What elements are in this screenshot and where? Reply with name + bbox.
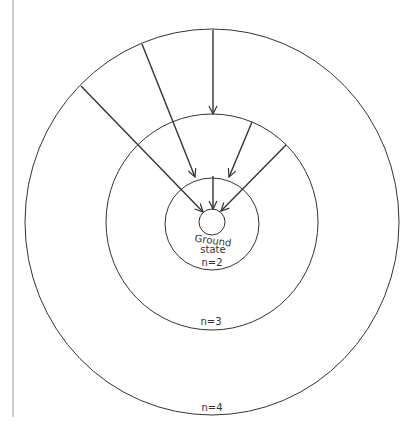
ground-state-circle [199, 209, 225, 235]
arrow-n3-to-ground [221, 145, 286, 211]
arrow-n4-to-ground [81, 86, 203, 212]
n4-label: n=4 [201, 402, 222, 413]
n3-label: n=3 [200, 316, 221, 327]
arrow-n3-to-n2 [229, 122, 252, 177]
bohr-diagram: Ground state n=2 n=3 n=4 [0, 0, 418, 436]
ground-label-2: state [200, 244, 225, 255]
n2-label: n=2 [201, 257, 222, 268]
orbit-n3 [106, 114, 318, 330]
